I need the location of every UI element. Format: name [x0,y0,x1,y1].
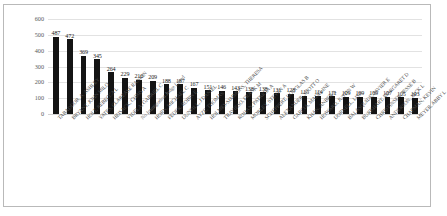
bar-value-label: 487 [52,30,61,36]
y-axis-tick-label: 0 [18,111,44,117]
y-axis-tick-label: 200 [18,79,44,85]
bar-value-label: 209 [148,74,157,80]
y-axis-tick-label: 300 [18,63,44,69]
bar-value-label: 188 [162,78,171,84]
chart-plot-area: 0100200300400500600 48747236934526422921… [4,5,430,206]
y-axis-tick-label: 500 [18,32,44,38]
bar-value-label: 264 [107,66,116,72]
bar-value-label: 146 [217,84,226,90]
bar[interactable] [53,37,59,114]
y-axis-tick-label: 600 [18,16,44,22]
bar-value-label: 345 [93,53,102,59]
bar-value-label: 472 [65,33,74,39]
bar-value-label: 167 [190,81,199,87]
bar-value-label: 229 [121,71,130,77]
y-axis: 0100200300400500600 [14,5,44,206]
y-axis-tick-label: 400 [18,48,44,54]
bar-item[interactable]: 487 [49,5,63,114]
y-axis-tick-label: 100 [18,95,44,101]
chart-frame: 0100200300400500600 48747236934526422921… [3,4,431,207]
bar-value-label: 369 [79,49,88,55]
